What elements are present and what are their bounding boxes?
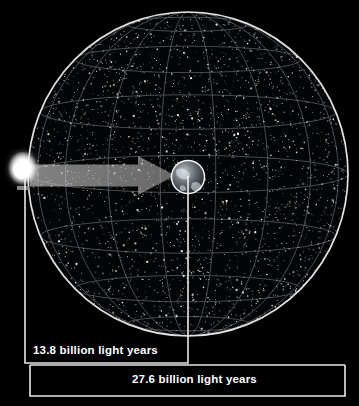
- universe-diagram: 13.8 billion light years 27.6 billion li…: [0, 0, 359, 406]
- radius-label: 13.8 billion light years: [33, 344, 158, 356]
- bulb-filament-glow: [13, 161, 31, 179]
- diameter-label: 27.6 billion light years: [132, 373, 257, 385]
